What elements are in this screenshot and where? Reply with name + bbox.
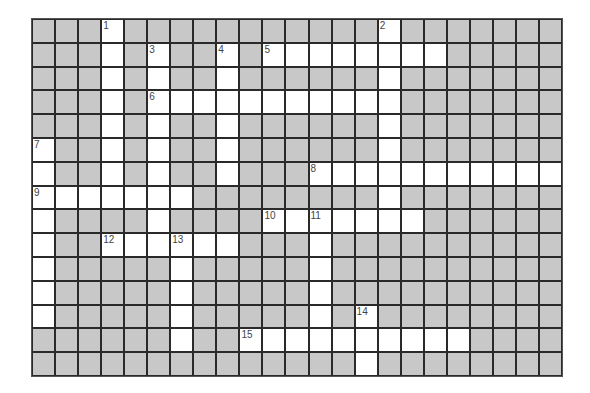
answer-cell[interactable] [286, 44, 307, 66]
answer-cell[interactable] [194, 234, 215, 256]
answer-cell[interactable] [379, 44, 400, 66]
answer-cell[interactable] [171, 306, 192, 328]
answer-cell[interactable] [263, 91, 284, 113]
answer-cell[interactable] [379, 115, 400, 137]
answer-cell[interactable] [402, 44, 423, 66]
answer-cell[interactable] [33, 163, 54, 185]
answer-cell[interactable]: 11 [310, 210, 331, 232]
answer-cell[interactable] [402, 163, 423, 185]
answer-cell[interactable] [286, 210, 307, 232]
answer-cell[interactable] [471, 163, 492, 185]
answer-cell[interactable] [148, 234, 169, 256]
answer-cell[interactable] [56, 187, 77, 209]
answer-cell[interactable] [379, 91, 400, 113]
answer-cell[interactable] [217, 163, 238, 185]
answer-cell[interactable] [102, 187, 123, 209]
answer-cell[interactable] [102, 115, 123, 137]
answer-cell[interactable] [448, 329, 469, 351]
answer-cell[interactable] [171, 258, 192, 280]
answer-cell[interactable]: 5 [263, 44, 284, 66]
answer-cell[interactable] [171, 187, 192, 209]
answer-cell[interactable] [356, 329, 377, 351]
answer-cell[interactable] [33, 234, 54, 256]
answer-cell[interactable] [194, 91, 215, 113]
answer-cell[interactable] [125, 187, 146, 209]
answer-cell[interactable] [402, 210, 423, 232]
answer-cell[interactable] [356, 353, 377, 375]
answer-cell[interactable] [33, 306, 54, 328]
answer-cell[interactable] [33, 210, 54, 232]
answer-cell[interactable]: 3 [148, 44, 169, 66]
answer-cell[interactable] [217, 91, 238, 113]
answer-cell[interactable] [333, 163, 354, 185]
answer-cell[interactable] [102, 163, 123, 185]
answer-cell[interactable]: 10 [263, 210, 284, 232]
answer-cell[interactable] [171, 91, 192, 113]
answer-cell[interactable] [379, 163, 400, 185]
answer-cell[interactable] [148, 163, 169, 185]
answer-cell[interactable] [448, 163, 469, 185]
answer-cell[interactable] [425, 329, 446, 351]
answer-cell[interactable]: 7 [33, 139, 54, 161]
answer-cell[interactable] [333, 44, 354, 66]
answer-cell[interactable] [171, 282, 192, 304]
answer-cell[interactable] [310, 91, 331, 113]
answer-cell[interactable] [148, 187, 169, 209]
answer-cell[interactable] [102, 44, 123, 66]
answer-cell[interactable] [240, 91, 261, 113]
answer-cell[interactable] [333, 91, 354, 113]
answer-cell[interactable] [286, 329, 307, 351]
answer-cell[interactable] [494, 163, 515, 185]
answer-cell[interactable] [148, 139, 169, 161]
answer-cell[interactable]: 6 [148, 91, 169, 113]
answer-cell[interactable] [310, 282, 331, 304]
answer-cell[interactable] [125, 234, 146, 256]
answer-cell[interactable]: 12 [102, 234, 123, 256]
answer-cell[interactable] [310, 258, 331, 280]
answer-cell[interactable] [148, 210, 169, 232]
answer-cell[interactable] [148, 115, 169, 137]
answer-cell[interactable] [171, 329, 192, 351]
answer-cell[interactable]: 15 [240, 329, 261, 351]
answer-cell[interactable] [379, 210, 400, 232]
answer-cell[interactable]: 1 [102, 20, 123, 42]
answer-cell[interactable] [217, 115, 238, 137]
answer-cell[interactable] [379, 329, 400, 351]
answer-cell[interactable] [333, 210, 354, 232]
answer-cell[interactable] [356, 210, 377, 232]
answer-cell[interactable]: 4 [217, 44, 238, 66]
answer-cell[interactable] [217, 68, 238, 90]
answer-cell[interactable]: 9 [33, 187, 54, 209]
answer-cell[interactable] [333, 329, 354, 351]
answer-cell[interactable] [517, 163, 538, 185]
answer-cell[interactable] [356, 44, 377, 66]
answer-cell[interactable] [217, 234, 238, 256]
answer-cell[interactable]: 2 [379, 20, 400, 42]
answer-cell[interactable] [217, 139, 238, 161]
answer-cell[interactable] [102, 139, 123, 161]
answer-cell[interactable] [33, 282, 54, 304]
answer-cell[interactable]: 14 [356, 306, 377, 328]
answer-cell[interactable] [425, 44, 446, 66]
answer-cell[interactable] [379, 68, 400, 90]
answer-cell[interactable]: 8 [310, 163, 331, 185]
answer-cell[interactable] [263, 329, 284, 351]
answer-cell[interactable] [102, 68, 123, 90]
answer-cell[interactable] [402, 329, 423, 351]
answer-cell[interactable]: 13 [171, 234, 192, 256]
answer-cell[interactable] [286, 91, 307, 113]
answer-cell[interactable] [148, 68, 169, 90]
answer-cell[interactable] [102, 91, 123, 113]
answer-cell[interactable] [310, 234, 331, 256]
answer-cell[interactable] [79, 187, 100, 209]
answer-cell[interactable] [33, 258, 54, 280]
answer-cell[interactable] [379, 139, 400, 161]
answer-cell[interactable] [310, 44, 331, 66]
answer-cell[interactable] [425, 163, 446, 185]
answer-cell[interactable] [356, 91, 377, 113]
answer-cell[interactable] [310, 306, 331, 328]
answer-cell[interactable] [356, 163, 377, 185]
answer-cell[interactable] [310, 329, 331, 351]
answer-cell[interactable] [379, 187, 400, 209]
answer-cell[interactable] [540, 163, 561, 185]
